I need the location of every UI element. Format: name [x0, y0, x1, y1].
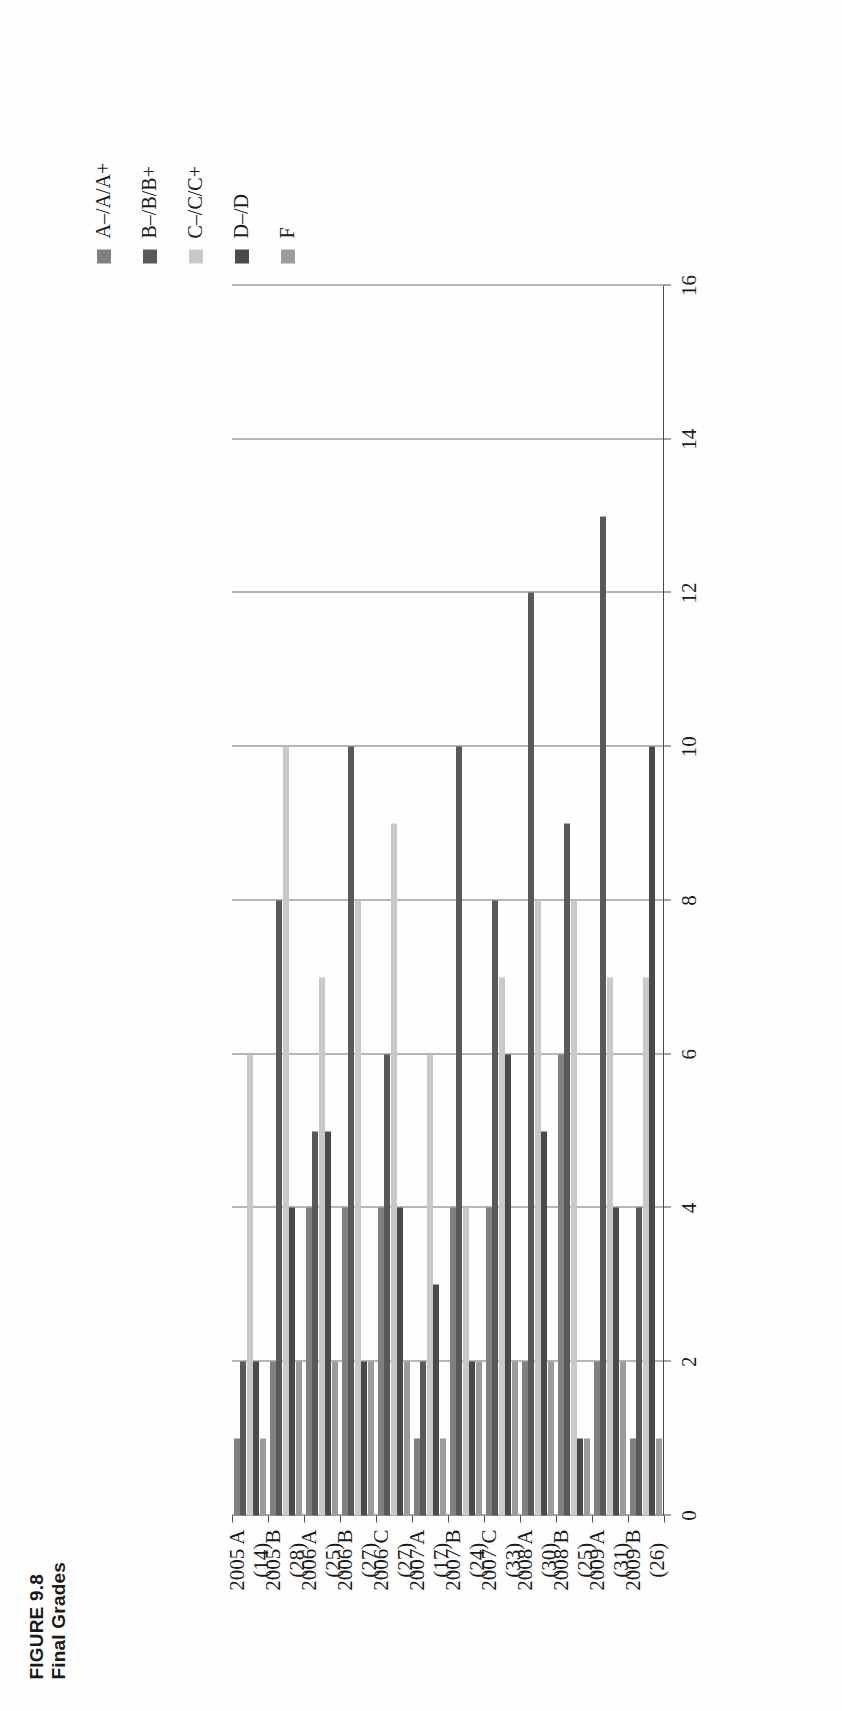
- bar: [571, 900, 577, 1515]
- gridline: [232, 745, 664, 746]
- category-term: 2005 A: [226, 1529, 250, 1590]
- bar: [512, 1361, 518, 1515]
- category-term: 2005 B: [262, 1529, 286, 1590]
- category-term: 2006 C: [370, 1529, 394, 1590]
- category-term: 2006 A: [298, 1529, 322, 1590]
- category-tick: [628, 1515, 629, 1522]
- figure-page: FIGURE 9.8 Final Grades A–/A/A+B–/B/B+C–…: [0, 0, 842, 1711]
- category-tick: [592, 1515, 593, 1522]
- category-label: 2009 B(26): [622, 1529, 669, 1590]
- bar: [636, 1208, 642, 1516]
- bar: [332, 1361, 338, 1515]
- chart-legend: A–/A/A+B–/B/B+C–/C/C+D–/DF: [92, 162, 299, 263]
- bar: [319, 977, 325, 1515]
- legend-label: A–/A/A+: [92, 162, 115, 238]
- category-term: 2008 B: [550, 1529, 574, 1590]
- bar: [476, 1361, 482, 1515]
- category-tick: [412, 1515, 413, 1522]
- bar: [584, 1438, 590, 1515]
- bar: [541, 1131, 547, 1515]
- plot-area: 02468101214162005 A(14)2005 B(28)2006 A(…: [232, 285, 664, 1515]
- category-tick: [484, 1515, 485, 1522]
- gridline: [232, 1053, 664, 1054]
- bar: [558, 1054, 564, 1515]
- bar: [450, 1208, 456, 1516]
- bar: [505, 1054, 511, 1515]
- axis-tick-label: 8: [677, 895, 702, 906]
- bar: [270, 1361, 276, 1515]
- axis-tick: [664, 1514, 671, 1515]
- bar: [378, 1208, 384, 1516]
- bar: [492, 900, 498, 1515]
- bar: [528, 593, 534, 1516]
- axis-tick-label: 2: [677, 1356, 702, 1367]
- bar: [361, 1361, 367, 1515]
- category-tick: [340, 1515, 341, 1522]
- bar: [384, 1054, 390, 1515]
- category-tick: [664, 1515, 665, 1522]
- bar: [391, 823, 397, 1515]
- bar: [577, 1438, 583, 1515]
- bar: [433, 1284, 439, 1515]
- axis-tick: [664, 1360, 671, 1361]
- figure-title: FIGURE 9.8 Final Grades: [26, 1562, 71, 1680]
- legend-swatch-icon: [189, 249, 203, 263]
- bar: [289, 1208, 295, 1516]
- category-tick: [376, 1515, 377, 1522]
- axis-tick-label: 10: [677, 736, 702, 757]
- bar: [296, 1361, 302, 1515]
- legend-item: B–/B/B+: [138, 162, 161, 263]
- bar: [253, 1361, 259, 1515]
- figure-title-text: Final Grades: [48, 1562, 70, 1680]
- bar: [240, 1361, 246, 1515]
- axis-tick: [664, 592, 671, 593]
- axis-tick: [664, 899, 671, 900]
- gridline: [232, 284, 664, 285]
- axis-tick: [664, 438, 671, 439]
- bar: [607, 977, 613, 1515]
- gridline: [232, 1207, 664, 1208]
- category-tick: [304, 1515, 305, 1522]
- bar: [276, 900, 282, 1515]
- category-tick: [232, 1515, 233, 1522]
- bar: [348, 746, 354, 1515]
- bar: [463, 1208, 469, 1516]
- bar: [312, 1131, 318, 1515]
- bar: [420, 1361, 426, 1515]
- bar: [564, 823, 570, 1515]
- axis-tick: [664, 284, 671, 285]
- bar: [643, 977, 649, 1515]
- bar: [283, 746, 289, 1515]
- bar: [656, 1438, 662, 1515]
- bar: [325, 1131, 331, 1515]
- bar: [440, 1438, 446, 1515]
- bar: [247, 1054, 253, 1515]
- legend-swatch-icon: [97, 249, 111, 263]
- bar: [414, 1438, 420, 1515]
- gridline: [232, 592, 664, 593]
- legend-label: D–/D: [230, 194, 253, 238]
- legend-swatch-icon: [281, 249, 295, 263]
- category-term: 2006 B: [334, 1529, 358, 1590]
- category-tick: [520, 1515, 521, 1522]
- bar: [306, 1208, 312, 1516]
- bar: [486, 1208, 492, 1516]
- axis-tick-label: 0: [677, 1510, 702, 1521]
- category-term: 2007 B: [442, 1529, 466, 1590]
- bar: [456, 746, 462, 1515]
- category-term: 2007 C: [478, 1529, 502, 1590]
- bar: [535, 900, 541, 1515]
- legend-swatch-icon: [235, 249, 249, 263]
- bar: [630, 1438, 636, 1515]
- bar: [522, 1361, 528, 1515]
- bar: [342, 1208, 348, 1516]
- bar: [234, 1438, 240, 1515]
- legend-item: D–/D: [230, 162, 253, 263]
- category-tick: [268, 1515, 269, 1522]
- legend-item: A–/A/A+: [92, 162, 115, 263]
- axis-tick: [664, 1053, 671, 1054]
- axis-tick-label: 12: [677, 582, 702, 603]
- gridline: [232, 438, 664, 439]
- chart-plot: 02468101214162005 A(14)2005 B(28)2006 A(…: [232, 285, 664, 1515]
- category-term: 2007 A: [406, 1529, 430, 1590]
